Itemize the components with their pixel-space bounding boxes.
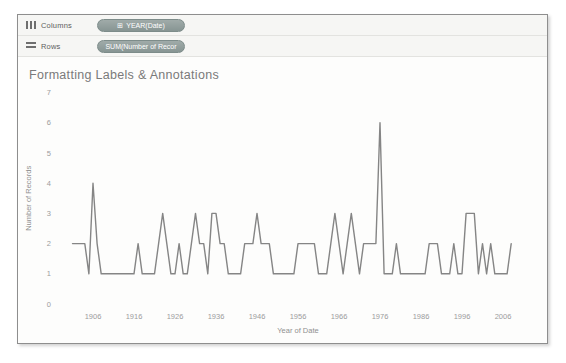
y-axis-tick: 4 xyxy=(47,179,51,188)
rows-shelf[interactable]: Rows SUM(Number of Recor xyxy=(18,36,547,57)
shelf-area: Columns ⊞ YEAR(Date) Rows SUM(Number of … xyxy=(18,15,547,57)
y-axis-tick: 3 xyxy=(47,209,51,218)
chart-canvas[interactable]: 0123456719061916192619361946195619661976… xyxy=(18,87,547,343)
x-axis-tick: 1936 xyxy=(208,312,225,321)
sheet-title: Formatting Labels & Annotations xyxy=(18,57,547,82)
date-hierarchy-expand-icon[interactable]: ⊞ xyxy=(117,22,123,29)
y-axis-tick: 7 xyxy=(47,88,51,97)
trend-line[interactable] xyxy=(73,123,512,274)
screenshot-canvas: Columns ⊞ YEAR(Date) Rows SUM(Number of … xyxy=(0,0,566,363)
sum-number-of-records-pill[interactable]: SUM(Number of Recor xyxy=(97,40,185,53)
x-axis-tick: 1956 xyxy=(290,312,307,321)
y-axis-tick: 1 xyxy=(47,269,51,278)
x-axis-tick: 1996 xyxy=(454,312,471,321)
y-axis-tick: 6 xyxy=(47,118,51,127)
x-axis-tick: 1916 xyxy=(126,312,143,321)
x-axis-tick: 1906 xyxy=(85,312,102,321)
y-axis-title: Number of Records xyxy=(24,166,33,231)
columns-icon xyxy=(26,21,36,29)
year-date-pill[interactable]: ⊞ YEAR(Date) xyxy=(97,19,185,32)
chart-area[interactable]: 0123456719061916192619361946195619661976… xyxy=(18,87,547,343)
x-axis-tick: 1946 xyxy=(249,312,266,321)
columns-shelf-label: Columns xyxy=(41,21,87,30)
x-axis-tick: 1986 xyxy=(413,312,430,321)
rows-shelf-label: Rows xyxy=(41,42,87,51)
y-axis-tick: 0 xyxy=(47,300,51,309)
columns-shelf[interactable]: Columns ⊞ YEAR(Date) xyxy=(18,15,547,36)
x-axis-title: Year of Date xyxy=(277,326,318,335)
year-date-pill-label: YEAR(Date) xyxy=(126,22,165,29)
sum-number-of-records-pill-label: SUM(Number of Recor xyxy=(105,43,176,50)
x-axis-tick: 1966 xyxy=(331,312,348,321)
x-axis-tick: 1976 xyxy=(372,312,389,321)
y-axis-tick: 2 xyxy=(47,239,51,248)
x-axis-tick: 1926 xyxy=(167,312,184,321)
y-axis-tick: 5 xyxy=(47,149,51,158)
x-axis-tick: 2006 xyxy=(495,312,512,321)
rows-icon xyxy=(26,42,36,50)
tableau-sheet-window: Columns ⊞ YEAR(Date) Rows SUM(Number of … xyxy=(17,14,548,344)
